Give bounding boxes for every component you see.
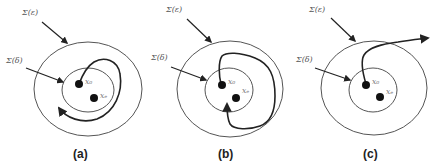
outer-label-arrow-icon — [331, 18, 355, 41]
equilibrium-point-dot — [90, 94, 98, 102]
start-point-dot — [75, 80, 83, 88]
outer-region-label: Σ(ε) — [165, 5, 182, 14]
start-point-label: x₀ — [228, 77, 235, 86]
inner-label-arrow-icon — [171, 67, 206, 80]
panel-c: Σ(ε) Σ(δ) x₀ xₑ (c) — [295, 5, 428, 161]
equilibrium-point-dot — [376, 93, 384, 101]
start-point-dot — [362, 81, 370, 89]
equilibrium-point-label: xₑ — [242, 86, 249, 95]
inner-region-label: Σ(δ) — [150, 53, 168, 62]
equilibrium-point-dot — [232, 94, 240, 102]
panel-caption: (b) — [218, 147, 233, 161]
inner-region-delta — [62, 68, 114, 112]
equilibrium-point-label: xₑ — [386, 87, 393, 96]
inner-label-arrow-icon — [315, 68, 350, 80]
panel-caption: (a) — [73, 147, 88, 161]
inner-region-label: Σ(δ) — [295, 55, 313, 64]
outer-region-epsilon — [34, 42, 142, 136]
start-point-label: x₀ — [85, 77, 92, 86]
inner-region-label: Σ(δ) — [5, 56, 23, 65]
stability-figure: Σ(ε) Σ(δ) x₀ xₑ (a) Σ(ε) Σ(δ) x₀ xₑ (b) … — [0, 0, 434, 165]
panel-caption: (c) — [363, 147, 378, 161]
outer-label-arrow-icon — [187, 19, 211, 42]
outer-region-label: Σ(ε) — [21, 8, 38, 17]
outer-label-arrow-icon — [42, 22, 67, 43]
start-point-dot — [218, 81, 226, 89]
panel-a: Σ(ε) Σ(δ) x₀ xₑ (a) — [5, 8, 142, 161]
outer-region-epsilon — [321, 41, 427, 135]
outer-region-label: Σ(ε) — [308, 5, 325, 14]
inner-label-arrow-icon — [26, 68, 63, 82]
panel-b: Σ(ε) Σ(δ) x₀ xₑ (b) — [150, 5, 283, 161]
equilibrium-point-label: xₑ — [100, 91, 107, 100]
start-point-label: x₀ — [372, 77, 379, 86]
